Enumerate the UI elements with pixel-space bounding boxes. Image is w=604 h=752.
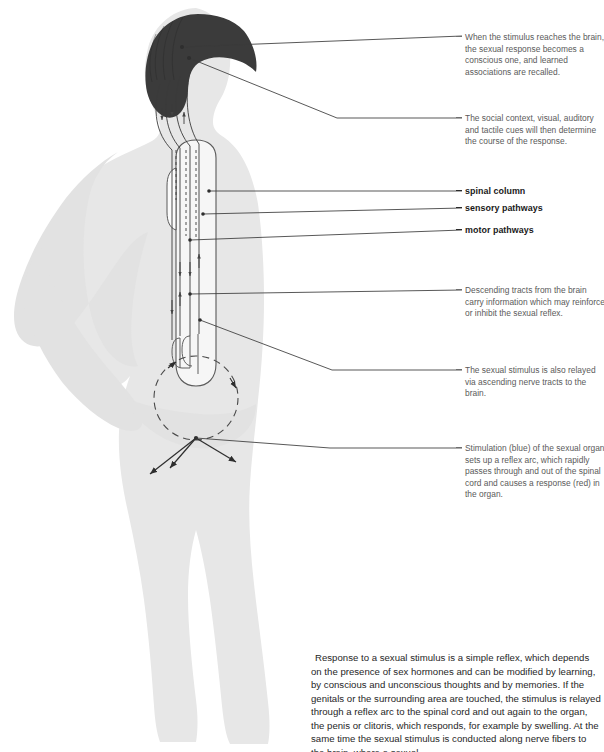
body-paragraph: Response to a sexual stimulus is a simpl… [311, 651, 601, 752]
leader-tick [456, 36, 462, 37]
leader-tick [456, 229, 462, 230]
callout-social-context-cues: The social context, visual, auditory and… [465, 113, 604, 148]
callout-stimulation-reflex-arc: Stimulation (blue) of the sexual organ s… [465, 443, 604, 501]
callout-text: Stimulation (blue) of the sexual organ s… [465, 443, 604, 499]
label-text: sensory pathways [465, 203, 543, 213]
body-paragraph-block: Response to a sexual stimulus is a simpl… [311, 651, 601, 752]
callout-text: The social context, visual, auditory and… [465, 113, 596, 146]
leader-tick [456, 117, 462, 118]
leader-tick [456, 207, 462, 208]
callout-descending-tracts: Descending tracts from the brain carry i… [465, 285, 604, 320]
label-text: motor pathways [465, 225, 534, 235]
leader-tick [456, 190, 462, 191]
label-sensory-pathways: sensory pathways [465, 203, 604, 214]
diagram-page: When the stimulus reaches the brain, the… [0, 0, 604, 752]
callout-text: The sexual stimulus is also relayed via … [465, 365, 596, 398]
leader-tick [456, 447, 462, 448]
callout-ascending-nerve-tracts: The sexual stimulus is also relayed via … [465, 365, 604, 400]
callout-text: When the stimulus reaches the brain, the… [465, 32, 604, 77]
label-motor-pathways: motor pathways [465, 225, 604, 236]
callout-text: Descending tracts from the brain carry i… [465, 285, 604, 318]
label-spinal-column: spinal column [465, 186, 604, 197]
leader-tick [456, 369, 462, 370]
label-text: spinal column [465, 186, 525, 196]
callout-brain-conscious-response: When the stimulus reaches the brain, the… [465, 32, 604, 78]
leader-tick [456, 289, 462, 290]
